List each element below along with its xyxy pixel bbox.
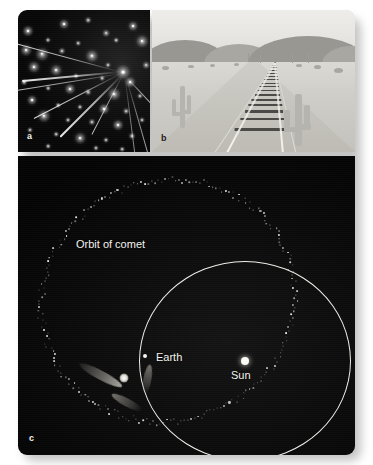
meteoroid-particle: [85, 394, 86, 395]
meteoroid-particle: [189, 182, 190, 183]
telegraph-pole: [292, 54, 293, 63]
meteoroid-particle: [122, 192, 123, 193]
cactus-stem: [295, 94, 302, 146]
meteoroid-particle: [244, 198, 245, 199]
meteoroid-particle: [108, 413, 110, 415]
cactus-arm-left-joint: [172, 112, 182, 116]
meteoroid-particle: [52, 247, 54, 249]
meteoroid-particle: [118, 417, 119, 418]
cactus-stem: [180, 86, 185, 128]
meteoroid-particle: [47, 267, 48, 268]
meteoroid-particle: [250, 202, 251, 203]
meteoroid-particle: [219, 187, 220, 188]
cactus-arm-right-joint: [299, 124, 310, 130]
desert-bush: [334, 68, 343, 73]
meteoroid-particle: [74, 382, 76, 384]
meteoroid-particle: [59, 247, 61, 249]
meteoroid-particle: [122, 416, 123, 417]
meteoroid-particle: [146, 418, 147, 419]
meteoroid-particle: [164, 178, 166, 180]
meteoroid-particle: [199, 183, 200, 184]
panel-b-label: b: [161, 134, 167, 143]
meteoroid-particle: [38, 306, 40, 308]
star: [69, 88, 71, 90]
meteoroid-particle: [133, 415, 135, 417]
meteoroid-particle: [137, 183, 139, 185]
meteoroid-particle: [287, 252, 289, 254]
meteoroid-particle: [278, 230, 280, 232]
telegraph-pole: [260, 55, 261, 63]
meteoroid-particle: [100, 409, 101, 410]
desert-bush: [162, 66, 169, 70]
meteoroid-particle: [221, 191, 223, 193]
meteoroid-particle: [47, 260, 49, 262]
meteoroid-particle: [47, 332, 48, 333]
meteoroid-particle: [276, 228, 278, 230]
comet-debris-streak-secondary: [110, 391, 144, 414]
meteoroid-particle: [207, 181, 208, 182]
meteoroid-particle: [161, 181, 162, 182]
meteoroid-particle: [278, 234, 280, 236]
meteoroid-particle: [57, 370, 58, 371]
panel-a-label: a: [27, 132, 32, 141]
meteoroid-particle: [278, 241, 279, 242]
comet-tail: [77, 360, 124, 390]
meteoroid-particle: [48, 271, 49, 272]
meteoroid-particle: [238, 194, 240, 196]
telegraph-pole: [308, 53, 309, 63]
meteoroid-particle: [292, 264, 293, 265]
meteoroid-particle: [75, 216, 77, 218]
meteoroid-particle: [154, 182, 156, 184]
meteoroid-particle: [181, 182, 183, 184]
meteoroid-particle: [68, 383, 69, 384]
desert-bush: [314, 65, 321, 69]
meteoroid-particle: [71, 222, 73, 224]
meteoroid-particle: [72, 388, 73, 389]
meteoroid-particle: [125, 419, 126, 420]
comet-orbit-label: Orbit of comet: [76, 239, 145, 250]
meteoroid-particle: [215, 188, 216, 189]
meteoroid-particle: [41, 283, 43, 285]
meteoroid-particle: [225, 189, 227, 191]
earth-marker: [143, 354, 147, 358]
star: [48, 88, 49, 89]
meteoroid-particle: [130, 184, 131, 185]
meteoroid-particle: [83, 209, 85, 211]
meteoroid-particle: [54, 352, 56, 354]
meteoroid-particle: [290, 255, 291, 256]
meteoroid-particle: [283, 250, 284, 251]
meteoroid-particle: [192, 181, 193, 182]
meteoroid-particle: [59, 365, 60, 366]
comet-nucleus: [120, 374, 129, 383]
meteoroid-particle: [37, 310, 38, 311]
meteoroid-particle: [87, 208, 88, 209]
meteoroid-particle: [175, 180, 177, 182]
meteoroid-particle: [90, 206, 92, 208]
meteoroid-particle: [249, 208, 251, 210]
meteoroid-particle: [114, 409, 115, 410]
meteoroid-particle: [105, 405, 107, 407]
meteoroid-particle: [203, 179, 205, 181]
meteoroid-particle: [144, 183, 146, 185]
meteoroid-particle: [46, 335, 48, 337]
meteoroid-particle: [49, 338, 51, 340]
meteoroid-particle: [53, 360, 55, 362]
meteoroid-particle: [140, 181, 142, 183]
meteoroid-particle: [68, 378, 70, 380]
meteoroid-particle: [60, 376, 62, 378]
meteoroid-particle: [136, 418, 137, 419]
meteoroid-particle: [91, 401, 93, 403]
meteoroid-particle: [168, 178, 170, 180]
meteoroid-particle: [67, 228, 69, 230]
desert-bush: [188, 65, 194, 68]
sun-label: Sun: [231, 370, 251, 381]
cactus: [172, 86, 192, 128]
meteoroid-particle: [265, 223, 267, 225]
meteoroid-particle: [54, 364, 56, 366]
meteoroid-particle: [43, 320, 44, 321]
panel-c-comet-orbit-diagram: Orbit of comet Earth Sun c: [18, 156, 355, 455]
telegraph-pole: [248, 53, 249, 63]
meteoroid-particle: [64, 238, 66, 240]
meteoroid-particle: [101, 197, 103, 199]
meteoroid-particle: [84, 215, 85, 216]
